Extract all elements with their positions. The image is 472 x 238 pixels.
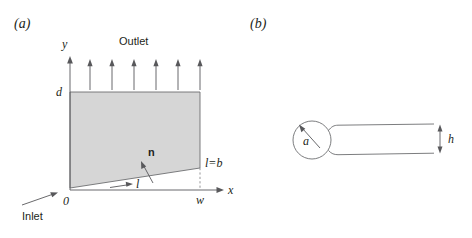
outlet-arrow [131,59,136,90]
outlet-arrow [175,59,180,90]
x-axis-label: x [227,183,234,197]
panel-b-caption: (b) [250,16,267,32]
panel-a: (a) y x 0 d w l=b Outlet [14,16,234,222]
outlet-arrow-group [87,59,202,90]
y-axis-label: y [61,37,68,51]
outlet-arrow [153,59,158,90]
tube-upper-wall [329,124,435,131]
x-axis-arrowhead [217,187,225,193]
radius-label: a [303,134,309,148]
arclength-arrow [110,182,133,188]
width-label-w: w [196,193,204,207]
bulb-circle [293,121,331,159]
origin-label: 0 [63,194,69,208]
height-label-d: d [56,85,63,99]
outlet-arrow [87,59,92,90]
inlet-label: Inlet [22,210,43,222]
panel-b: (b) a h [250,16,454,159]
figure-canvas: (a) y x 0 d w l=b Outlet [0,0,472,238]
gap-arrow [438,125,443,154]
outlet-arrow [109,59,114,90]
gap-label: h [448,132,454,146]
arclength-max-label: l=b [205,156,222,170]
outlet-label: Outlet [119,35,148,47]
y-axis-arrowhead [67,56,73,64]
outlet-arrow [197,59,202,90]
panel-a-caption: (a) [14,16,31,32]
shaded-domain [70,92,200,188]
figure-root: (a) y x 0 d w l=b Outlet [0,0,472,238]
normal-vector-label: n [148,146,155,158]
inlet-arrow [22,192,58,205]
tube-lower-wall [329,151,435,155]
arclength-label: l [136,177,140,191]
